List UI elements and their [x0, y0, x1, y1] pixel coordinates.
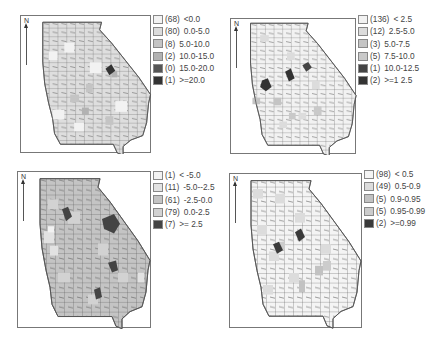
- legend-item: (5)0.95-0.99: [364, 205, 425, 217]
- legend-item: (5)0.9-0.95: [364, 193, 425, 205]
- legend: (136)< 2.5 (12)2.5-5.0 (3)5.0-7.5 (5)7.5…: [358, 13, 419, 87]
- georgia-county-map: [18, 172, 152, 329]
- legend: (68)<0.0 (80)0.0-5.0 (8)5.0-10.0 (2)10.0…: [153, 13, 214, 87]
- legend-swatch: [153, 183, 163, 192]
- legend-item: (2)10.0-15.0: [153, 50, 214, 62]
- legend-item: (8)5.0-10.0: [153, 38, 214, 50]
- legend-item: (98)< 0.5: [364, 168, 425, 180]
- map-frame: N: [20, 15, 151, 153]
- legend-swatch: [364, 182, 374, 191]
- legend-item: (3)5.0-7.5: [358, 38, 419, 50]
- legend-swatch: [358, 52, 368, 61]
- legend-item: (1)>=20.0: [153, 74, 214, 86]
- legend-swatch: [153, 39, 163, 48]
- legend-swatch: [153, 27, 163, 36]
- legend-item: (68)<0.0: [153, 13, 214, 25]
- legend-swatch: [358, 15, 368, 24]
- legend-swatch: [153, 220, 163, 229]
- legend-item: (80)0.0-5.0: [153, 25, 214, 37]
- legend-swatch: [364, 207, 374, 216]
- legend-item: (1)10.0-12.5: [358, 62, 419, 74]
- legend-swatch: [153, 195, 163, 204]
- georgia-county-map: [21, 16, 152, 154]
- legend-item: (61)-2.5-0.0: [153, 194, 215, 206]
- legend-item: (5)7.5-10.0: [358, 50, 419, 62]
- legend: (1)< -5.0 (11)-5.0--2.5 (61)-2.5-0.0 (79…: [153, 169, 215, 230]
- legend-swatch: [358, 76, 368, 85]
- legend-swatch: [364, 194, 374, 203]
- map-frame: N: [230, 18, 356, 154]
- legend-swatch: [358, 27, 368, 36]
- legend-swatch: [153, 171, 163, 180]
- legend-item: (49)0.5-0.9: [364, 180, 425, 192]
- legend-swatch: [153, 64, 163, 73]
- legend-item: (79)0.0-2.5: [153, 206, 215, 218]
- legend-item: (12)2.5-5.0: [358, 25, 419, 37]
- legend-swatch: [358, 64, 368, 73]
- legend-item: (2)>=0.99: [364, 217, 425, 229]
- map-frame: N: [229, 173, 362, 328]
- legend: (98)< 0.5 (49)0.5-0.9 (5)0.9-0.95 (5)0.9…: [364, 168, 425, 229]
- legend-swatch: [153, 52, 163, 61]
- map-frame: N: [17, 171, 151, 328]
- legend-item: (2)>=1 2.5: [358, 74, 419, 86]
- legend-item: (11)-5.0--2.5: [153, 181, 215, 193]
- georgia-county-map: [230, 174, 363, 329]
- legend-item: (0)15.0-20.0: [153, 62, 214, 74]
- legend-item: (7)>= 2.5: [153, 218, 215, 230]
- legend-swatch: [153, 208, 163, 217]
- legend-swatch: [358, 39, 368, 48]
- legend-swatch: [153, 15, 163, 24]
- legend-swatch: [364, 219, 374, 228]
- legend-swatch: [364, 170, 374, 179]
- legend-swatch: [153, 76, 163, 85]
- legend-item: (1)< -5.0: [153, 169, 215, 181]
- georgia-county-map: [231, 19, 357, 155]
- legend-item: (136)< 2.5: [358, 13, 419, 25]
